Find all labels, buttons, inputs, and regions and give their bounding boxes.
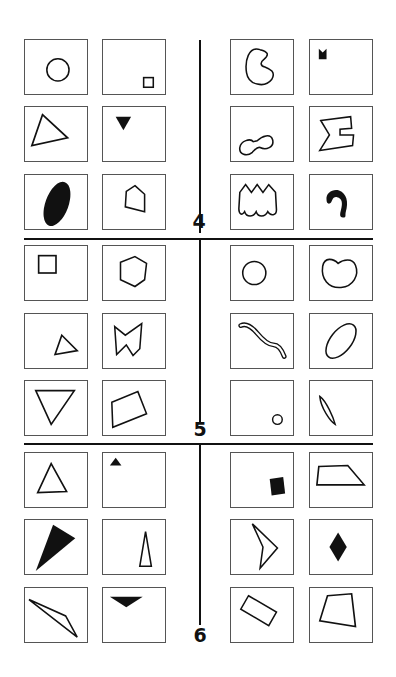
wavy-worm-icon xyxy=(231,314,293,368)
panel-6-left-1 xyxy=(24,452,88,508)
panel-4-right-5 xyxy=(230,174,294,230)
panel-6-right-5 xyxy=(230,587,294,643)
section-label-5: 5 xyxy=(190,418,210,440)
bowtie-polygon-icon xyxy=(103,314,165,368)
section-label-4: 4 xyxy=(189,210,209,232)
square-filled-icon xyxy=(231,453,293,507)
panel-6-right-3 xyxy=(230,519,294,575)
panel-5-left-6 xyxy=(102,380,166,436)
panel-5-right-4 xyxy=(309,313,373,369)
panel-6-right-2 xyxy=(309,452,373,508)
panel-4-right-4 xyxy=(309,106,373,162)
triangle-icon xyxy=(25,314,87,368)
quadrilateral-icon xyxy=(103,381,165,435)
sigma-shape-icon xyxy=(310,107,372,161)
triangle-icon xyxy=(25,107,87,161)
panel-6-right-6 xyxy=(309,587,373,643)
panel-6-left-2 xyxy=(102,452,166,508)
triangle-icon xyxy=(25,453,87,507)
bean-icon xyxy=(310,246,372,300)
center-divider xyxy=(199,40,201,233)
arrowhead-icon xyxy=(231,520,293,574)
quadrilateral-icon xyxy=(310,588,372,642)
panel-5-left-4 xyxy=(102,313,166,369)
panel-5-left-3 xyxy=(24,313,88,369)
sliver-triangle-icon xyxy=(25,588,87,642)
section-label-6: 6 xyxy=(190,624,210,646)
circle-icon xyxy=(231,246,293,300)
circle-icon xyxy=(25,40,87,94)
panel-6-right-4 xyxy=(309,519,373,575)
panel-5-left-1 xyxy=(24,245,88,301)
peanut-icon xyxy=(231,107,293,161)
panel-4-left-6 xyxy=(102,174,166,230)
panel-6-left-6 xyxy=(102,587,166,643)
panel-6-left-4 xyxy=(102,519,166,575)
notched-square-icon xyxy=(310,40,372,94)
pentagon-icon xyxy=(103,175,165,229)
panel-4-left-1 xyxy=(24,39,88,95)
ellipse-icon xyxy=(310,314,372,368)
panel-4-left-2 xyxy=(102,39,166,95)
kidney-c-icon xyxy=(231,40,293,94)
section-divider xyxy=(24,443,373,445)
square-icon xyxy=(25,246,87,300)
lens-icon xyxy=(310,381,372,435)
panel-6-left-5 xyxy=(24,587,88,643)
section-divider xyxy=(24,238,373,240)
panel-4-right-6 xyxy=(309,174,373,230)
panel-4-right-2 xyxy=(309,39,373,95)
rectangle-rotated-icon xyxy=(231,588,293,642)
panel-5-right-3 xyxy=(230,313,294,369)
triangle-filled-icon xyxy=(25,520,87,574)
panel-4-right-3 xyxy=(230,106,294,162)
panel-4-left-3 xyxy=(24,106,88,162)
panel-5-right-6 xyxy=(309,380,373,436)
diamond-filled-icon xyxy=(310,520,372,574)
inverted-triangle-icon xyxy=(103,107,165,161)
center-divider xyxy=(199,240,201,422)
panel-5-right-5 xyxy=(230,380,294,436)
thin-triangle-icon xyxy=(103,520,165,574)
panel-4-right-1 xyxy=(230,39,294,95)
panel-5-left-5 xyxy=(24,380,88,436)
panel-5-right-2 xyxy=(309,245,373,301)
square-icon xyxy=(103,40,165,94)
panel-6-left-3 xyxy=(24,519,88,575)
inverted-triangle-icon xyxy=(25,381,87,435)
panel-6-right-1 xyxy=(230,452,294,508)
ellipse-icon xyxy=(25,175,87,229)
center-divider xyxy=(199,445,201,625)
hook-icon xyxy=(310,175,372,229)
circle-small-icon xyxy=(231,381,293,435)
panel-4-left-4 xyxy=(102,106,166,162)
trapezoid-icon xyxy=(310,453,372,507)
panel-4-left-5 xyxy=(24,174,88,230)
crown-scalloped-icon xyxy=(231,175,293,229)
panel-5-left-2 xyxy=(102,245,166,301)
inverted-triangle-filled-icon xyxy=(103,588,165,642)
panel-5-right-1 xyxy=(230,245,294,301)
hexagon-icon xyxy=(103,246,165,300)
triangle-filled-icon xyxy=(103,453,165,507)
